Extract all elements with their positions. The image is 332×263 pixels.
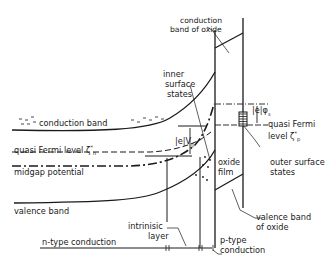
leader-outer-surface-states — [243, 125, 260, 147]
label-conduction-band-oxide-1: conduction — [180, 16, 222, 25]
label-ev0: |e|V0 — [175, 137, 194, 150]
label-inner-surface-states-3: states — [167, 90, 192, 99]
label-conduction-band-oxide-2: band of oxide — [170, 25, 222, 34]
label-valence-band: valence band — [14, 207, 69, 216]
label-outer-surface-states-2: states — [270, 168, 295, 177]
label-inner-surface-states-1: inner — [163, 70, 184, 79]
label-quasi-fermi-right-2: level ζ*p — [268, 129, 300, 144]
label-intrinsic-layer-1: intrinisic — [128, 222, 163, 231]
leader-intrinsic-layer — [167, 228, 186, 246]
label-oxide-film-1: oxide — [218, 158, 240, 167]
oxide-conduction-band-line — [215, 33, 243, 48]
label-outer-surface-states-1: outer surface — [270, 158, 325, 167]
label-conduction-band: conduction band — [39, 119, 107, 128]
label-oxide-film-2: film — [218, 168, 233, 177]
label-p-type-conduction-2: conduction — [220, 246, 265, 255]
label-quasi-fermi-left: quasi Fermi level ζ*n — [14, 143, 96, 158]
label-valence-band-oxide-2: of oxide — [256, 223, 289, 232]
label-n-type-conduction: n-type conduction — [42, 238, 116, 247]
label-midgap-potential: midgap potential — [14, 168, 84, 177]
label-valence-band-oxide-1: valence band — [256, 213, 311, 222]
outer-surface-states-block — [239, 112, 247, 126]
label-quasi-fermi-right-1: quasi Fermi — [268, 120, 315, 129]
band-diagram: conduction band of oxide inner surface s… — [0, 0, 332, 263]
label-phis: |e|φs — [252, 106, 271, 119]
label-intrinsic-layer-2: layer — [148, 232, 169, 241]
label-p-type-conduction-1: p-type — [220, 236, 246, 245]
label-inner-surface-states-2: surface — [165, 80, 195, 89]
